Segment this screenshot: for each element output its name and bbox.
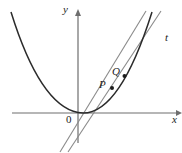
parabola-curve [11,12,152,113]
y-axis-label: y [63,4,68,15]
math-figure: y x 0 P Q t [0,0,182,153]
origin-label: 0 [66,114,72,125]
point-marker-p [110,86,114,90]
x-axis-label: x [172,114,177,125]
y-axis-arrow-icon [75,9,81,16]
point-label-p: P [99,79,106,90]
point-marker-q [123,74,127,78]
point-label-q: Q [112,66,120,77]
tangent-line-label: t [165,32,168,43]
tangent-line-t [68,11,161,152]
x-axis [12,110,182,116]
figure-canvas [0,0,182,153]
